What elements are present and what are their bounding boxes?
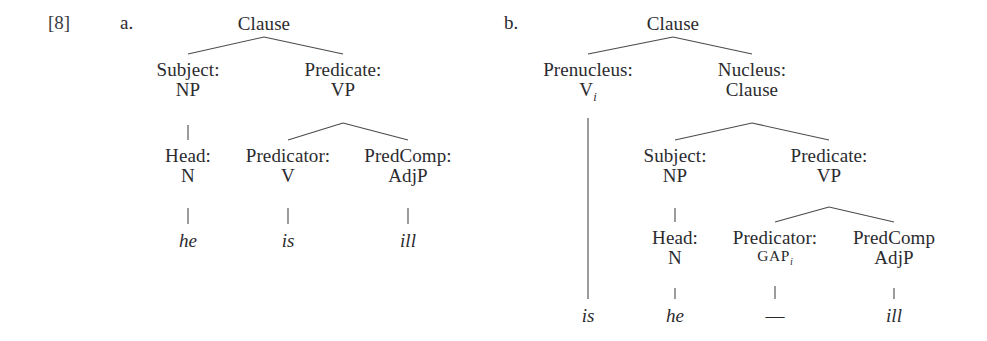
tree-leaf-gap: —	[766, 305, 785, 327]
node-index-subscript: i	[790, 256, 793, 267]
tree-leaf-he: he	[666, 305, 684, 327]
node-category-label: VP	[791, 166, 868, 186]
tree-node-predcomp-adjp: PredCompAdjP	[853, 228, 935, 269]
node-category-label: AdjP	[853, 248, 935, 268]
tree-node-nucleus-clause: Nucleus:Clause	[718, 60, 786, 101]
tree-leaf-ill: ill	[886, 305, 902, 327]
node-category-label: Vi	[543, 80, 633, 104]
node-role-label: Head:	[652, 228, 698, 248]
node-index-subscript: i	[593, 90, 596, 104]
tree-leaf-is: is	[582, 305, 595, 327]
node-role-label: Predicate:	[791, 146, 868, 166]
node-category-label: Clause	[647, 14, 699, 34]
node-role-label: PredComp	[853, 228, 935, 248]
node-category-label: Clause	[718, 80, 786, 100]
node-role-label: Predicator:	[733, 228, 817, 248]
tree-node-prenucleus-v: Prenucleus:Vi	[543, 60, 633, 105]
node-category-label: NP	[643, 166, 706, 186]
node-category-label: GAPi	[733, 248, 817, 268]
tree-node-head-n: Head:N	[652, 228, 698, 269]
tree-node-clause-root: Clause	[647, 14, 699, 34]
tree-node-subject-np: Subject:NP	[643, 146, 706, 187]
diagram-page: [8] a. ClauseSubject:NPPredicate:VPHead:…	[0, 0, 987, 341]
node-role-label: Nucleus:	[718, 60, 786, 80]
tree-node-predicate-vp: Predicate:VP	[791, 146, 868, 187]
syntax-tree-b: ClausePrenucleus:ViNucleus:ClauseSubject…	[0, 0, 987, 341]
tree-node-predicator-gap: Predicator:GAPi	[733, 228, 817, 268]
node-category-label: N	[652, 248, 698, 268]
node-role-label: Prenucleus:	[543, 60, 633, 80]
node-role-label: Subject:	[643, 146, 706, 166]
